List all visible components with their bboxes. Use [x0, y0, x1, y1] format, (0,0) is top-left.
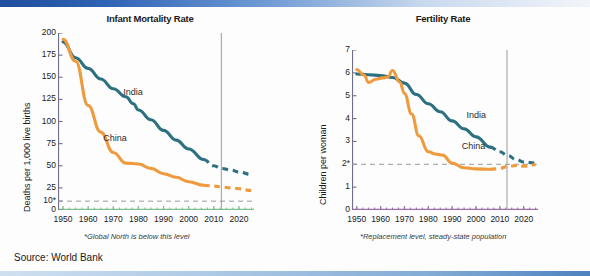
y-tick-label: 0: [312, 204, 350, 214]
y-tick-label: 50: [18, 160, 56, 170]
series-label-india: India: [466, 110, 486, 120]
y-tick-label: 150: [18, 71, 56, 81]
y-tick-label: 6: [312, 67, 350, 77]
y-tick-label: 2*: [312, 158, 350, 168]
chart-fertility-rate: Fertility Rate Children per woman *Repla…: [296, 0, 590, 276]
series-label-india: India: [123, 87, 143, 97]
footnote-infant-mortality: *Global North is below this level: [84, 232, 189, 241]
bottom-decorative-bar: [0, 271, 590, 276]
chart-title-fertility-rate: Fertility Rate: [296, 13, 590, 24]
y-tick-label: 100: [18, 116, 56, 126]
y-tick-label: 10*: [18, 195, 56, 205]
y-tick-label: 1: [312, 181, 350, 191]
x-tick-label: 2020: [222, 214, 256, 224]
y-tick-label: 4: [312, 113, 350, 123]
plot-area-fertility-rate: [352, 50, 538, 210]
y-tick-label: 200: [18, 27, 56, 37]
y-tick-label: 125: [18, 93, 56, 103]
y-tick-label: 0: [18, 204, 56, 214]
chart-title-infant-mortality: Infant Mortality Rate: [0, 13, 300, 24]
footnote-fertility-rate: *Replacement level, steady-state populat…: [360, 232, 506, 241]
source-note: Source: World Bank: [14, 252, 103, 263]
x-tick-label: 2020: [507, 214, 541, 224]
y-tick-label: 25: [18, 182, 56, 192]
y-tick-label: 3: [312, 135, 350, 145]
plot-area-infant-mortality: [58, 33, 254, 210]
y-tick-label: 7: [312, 44, 350, 54]
chart-page: Infant Mortality Rate Deaths per 1,000 l…: [0, 0, 590, 276]
chart-infant-mortality: Infant Mortality Rate Deaths per 1,000 l…: [0, 0, 300, 276]
y-tick-label: 175: [18, 49, 56, 59]
y-tick-label: 5: [312, 90, 350, 100]
y-tick-label: 75: [18, 138, 56, 148]
series-label-china: China: [462, 141, 486, 151]
series-label-china: China: [103, 133, 127, 143]
